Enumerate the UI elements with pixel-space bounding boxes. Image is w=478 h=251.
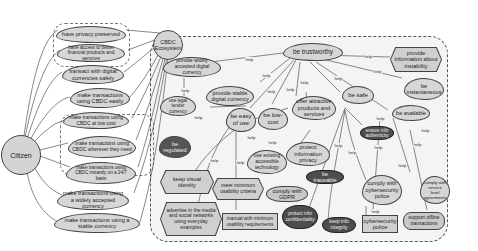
actor-cbdc-ecosystem[interactable]: CBDC Ecosystem xyxy=(153,30,183,60)
task-meet-usability-criteria[interactable]: meet minimum usability criteria xyxy=(213,179,263,199)
node-label: be available xyxy=(396,110,426,116)
actor-citizen-label: Citizen xyxy=(10,152,31,159)
node-label: offer attractive products and services xyxy=(296,98,332,117)
softgoal-be-instantaneous[interactable]: be instantaneous xyxy=(404,78,444,100)
link-label-help: help xyxy=(364,54,373,59)
link-label-help: help xyxy=(374,145,383,150)
task-keep-visual-identity[interactable]: keep visual identity xyxy=(161,171,213,193)
node-label: be traceable xyxy=(310,171,340,184)
node-label: have privacy preserved xyxy=(62,31,120,37)
node-label: be easy of use xyxy=(230,113,252,127)
node-label: keep info integrity xyxy=(326,219,352,230)
softgoal-offer-attractive[interactable]: offer attractive products and services xyxy=(292,96,336,120)
node-label: manual with minimum usability requiremen… xyxy=(226,216,274,227)
node-label: make transactions using a stable currenc… xyxy=(58,217,136,230)
link-label-help: help xyxy=(210,158,219,163)
goal-ensure-authenticity[interactable]: ensure info authenticity xyxy=(360,126,394,140)
node-label: use existing accessible technology xyxy=(251,153,283,170)
node-label: support offline transactions xyxy=(407,215,441,227)
node-label: meet minimum usability criteria xyxy=(216,183,260,195)
dependum-transact-easily[interactable]: make transactions using CBDC easily xyxy=(70,88,130,108)
dependum-stable-currency[interactable]: make transactions using a stable currenc… xyxy=(54,213,140,233)
softgoal-protect-privacy[interactable]: protect information privacy xyxy=(286,142,330,166)
softgoal-be-safe[interactable]: be safe xyxy=(342,86,374,104)
dependum-transact-wherever[interactable]: make transactions using CBDC wherever th… xyxy=(68,136,136,158)
node-label: ensure info authenticity xyxy=(364,128,390,139)
resource-cybersecurity-police[interactable]: cybersecurity police xyxy=(362,215,398,233)
goal-support-offline[interactable]: support offline transactions xyxy=(403,212,445,230)
softgoal-use-existing-tech[interactable]: use existing accessible technology xyxy=(247,150,287,174)
dependum-transact-instantly[interactable]: make transactions using CBDC instantly o… xyxy=(66,162,136,184)
link-label-help: help xyxy=(268,140,277,145)
resource-manual-usability[interactable]: manual with minimum usability requiremen… xyxy=(222,213,278,230)
link-label-help: help xyxy=(421,128,430,133)
node-label: be regulated xyxy=(163,141,187,154)
link-label-help: help xyxy=(194,115,203,120)
actor-ecosystem-label: CBDC Ecosystem xyxy=(154,39,182,51)
link-label-help: help xyxy=(348,150,357,155)
node-label: provide information about instability xyxy=(394,50,438,69)
node-label: comply with service level agreements xyxy=(423,180,446,200)
link-label-help: help xyxy=(376,116,385,121)
softgoal-be-low-cost[interactable]: be low-cost xyxy=(258,108,288,130)
node-label: cybersecurity police xyxy=(364,218,397,231)
node-label: have access to better financial products… xyxy=(61,45,121,62)
node-label: be instantaneous xyxy=(407,83,442,96)
softgoal-be-trustworthy[interactable]: be trustworthy xyxy=(283,43,343,61)
node-label: transact with digital currencies safely xyxy=(66,68,120,81)
node-label: make transactions using CBDC instantly o… xyxy=(70,165,132,181)
node-label: make transactions using CBDC at low cost xyxy=(67,115,125,127)
node-label: be safe xyxy=(348,92,368,99)
softgoal-be-available[interactable]: be available xyxy=(392,105,430,121)
softgoal-use-legal-tender[interactable]: use legal tender currency xyxy=(160,96,196,116)
dependum-transact-safely[interactable]: transact with digital currencies safely xyxy=(62,65,124,84)
node-label: be low-cost xyxy=(262,112,284,126)
actor-citizen[interactable]: Citizen xyxy=(1,135,41,175)
link-label-help: help xyxy=(373,69,382,74)
dependum-transact-low-cost[interactable]: make transactions using CBDC at low cost xyxy=(63,112,129,129)
goal-comply-gdpr[interactable]: comply with GDPR xyxy=(266,186,308,202)
link-label-help: help xyxy=(236,160,245,165)
dependum-have-privacy-preserved[interactable]: have privacy preserved xyxy=(56,26,126,43)
node-label: keep visual identity xyxy=(164,176,210,189)
link-label-help: help xyxy=(247,135,256,140)
link-label-help: help xyxy=(334,76,343,81)
goal-protect-confidentiality[interactable]: protect info confidentiality xyxy=(282,205,318,229)
goal-keep-integrity[interactable]: keep info integrity xyxy=(322,217,356,233)
link-label-help: help xyxy=(262,73,271,78)
link-label-help: help xyxy=(245,57,254,62)
node-label: provide widely accepted digital currency xyxy=(167,58,217,75)
link-label-help: help xyxy=(181,88,190,93)
softgoal-comply-sla[interactable]: comply with service level agreements xyxy=(420,176,450,204)
goal-model-canvas: help help help help help help help help … xyxy=(0,0,478,251)
softgoal-be-easy-of-use[interactable]: be easy of use xyxy=(226,108,256,132)
softgoal-provide-stable[interactable]: provide stable digital currency xyxy=(206,86,254,106)
softgoal-comply-cyber-police[interactable]: comply with cybersecurity police xyxy=(362,175,402,205)
link-label-help: help xyxy=(267,89,276,94)
node-label: protect info confidentiality xyxy=(285,211,314,222)
softgoal-provide-widely-accepted[interactable]: provide widely accepted digital currency xyxy=(163,57,221,77)
node-label: protect information privacy xyxy=(290,144,326,163)
node-label: be trustworthy xyxy=(293,48,333,55)
link-label-help: help xyxy=(413,142,422,147)
link-label-help: help xyxy=(371,209,380,214)
link-label-help: help xyxy=(334,143,343,148)
link-label-help: help xyxy=(286,87,295,92)
node-label: advertise in the media and social networ… xyxy=(164,208,218,231)
goal-be-traceable[interactable]: be traceable xyxy=(306,170,344,184)
node-label: use legal tender currency xyxy=(164,98,192,114)
node-label: make transactions using CBDC wherever th… xyxy=(72,141,132,153)
task-advertise-media[interactable]: advertise in the media and social networ… xyxy=(161,203,221,235)
node-label: comply with GDPR xyxy=(270,188,304,201)
node-label: provide stable digital currency xyxy=(210,90,250,103)
node-label: make transactions using CBDC easily xyxy=(74,92,126,105)
link-label-help: help xyxy=(300,80,309,85)
node-label: make transactions using a widely accepte… xyxy=(61,190,125,209)
dependum-widely-accepted-currency[interactable]: make transactions using a widely accepte… xyxy=(57,190,129,210)
task-provide-info-instability[interactable]: provide information about instability xyxy=(391,48,441,71)
softgoal-be-regulated[interactable]: be regulated xyxy=(159,136,191,158)
dependum-access-financial-products[interactable]: have access to better financial products… xyxy=(57,44,125,62)
link-label-help: help xyxy=(398,163,407,168)
node-label: comply with cybersecurity police xyxy=(366,180,399,199)
